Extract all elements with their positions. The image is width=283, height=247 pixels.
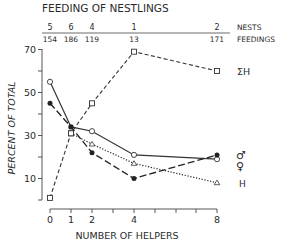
series-label-female: ♀ [236, 160, 244, 173]
y-axis-label: PERCENT OF TOTAL [6, 82, 17, 175]
square-marker [215, 69, 220, 74]
feedings-value: 119 [85, 35, 100, 44]
nests-value: 6 [68, 23, 73, 32]
series-label-helpers: H [239, 179, 246, 189]
nests-value: 1 [131, 23, 136, 32]
y-tick-label: 10 [24, 173, 36, 184]
series-label-sum-helpers: ΣH [237, 66, 250, 77]
series-helpers: H [71, 133, 246, 189]
filled-circle-marker [90, 150, 95, 155]
feedings-row-label: FEEDINGS [237, 35, 275, 44]
x-tick-label: 4 [131, 214, 137, 225]
open-circle-marker [89, 129, 94, 134]
x-tick-label: 2 [89, 214, 95, 225]
square-marker [48, 195, 53, 200]
y-tick-label: 50 [24, 87, 36, 98]
filled-circle-marker [48, 101, 53, 106]
x-tick-label: 0 [47, 214, 53, 225]
square-marker [90, 101, 95, 106]
x-tick-label: 1 [68, 214, 74, 225]
series-sum-helpers: ΣH [48, 49, 251, 200]
open-circle-marker [131, 152, 136, 157]
triangle-marker [89, 141, 95, 146]
square-marker [132, 49, 137, 54]
series-male [48, 101, 220, 181]
nests-value: 5 [47, 23, 52, 32]
feedings-value: 13 [129, 35, 139, 44]
feedings-value: 186 [64, 35, 79, 44]
nests-value: 4 [89, 23, 94, 32]
feedings-value: 171 [210, 35, 225, 44]
filled-circle-marker [215, 152, 220, 157]
x-axis-label: NUMBER OF HELPERS [75, 230, 178, 241]
nests-feedings-table: 5 6 4 1 2 NESTS 154 186 119 13 171 FEEDI… [42, 23, 275, 44]
x-axis: 0 1 2 4 8 NUMBER OF HELPERS [47, 209, 220, 241]
triangle-marker [214, 180, 220, 185]
feedings-value: 154 [43, 35, 58, 44]
chart: FEEDING OF NESTLINGS 5 6 4 1 2 NESTS 154… [0, 0, 283, 247]
y-tick-label: 30 [24, 130, 36, 141]
open-circle-marker [47, 79, 52, 84]
nests-value: 2 [214, 23, 219, 32]
y-tick-label: 70 [24, 44, 36, 55]
chart-title: FEEDING OF NESTLINGS [42, 2, 169, 14]
x-tick-label: 8 [214, 214, 220, 225]
filled-circle-marker [132, 176, 137, 181]
filled-circle-marker [68, 124, 73, 129]
nests-row-label: NESTS [237, 23, 262, 32]
series-female [47, 79, 219, 162]
square-marker [69, 131, 74, 136]
y-axis: 70 50 30 10 PERCENT OF TOTAL [6, 44, 42, 200]
